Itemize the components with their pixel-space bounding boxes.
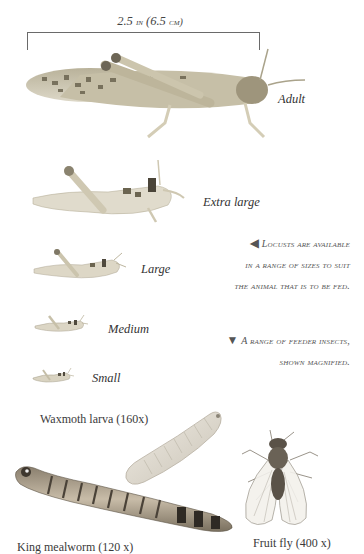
fruit-fly-illustration — [232, 430, 332, 532]
measurement-label: 2.5 in (6.5 cm) — [90, 14, 210, 29]
caption-locusts-line-1: ◀ Locusts are available — [235, 233, 350, 254]
size-label-adult: Adult — [278, 92, 305, 107]
small-locust-illustration — [32, 367, 74, 385]
measurement-metric: (6.5 — [146, 14, 166, 28]
caption-feeders-line-2: shown magnified. — [227, 351, 350, 372]
king-mealworm-illustration — [12, 462, 237, 537]
measurement-number: 2.5 — [117, 14, 133, 28]
caption-locusts-line-3: the animal that is to be fed. — [235, 275, 350, 296]
measurement-unit-cm: cm) — [169, 16, 183, 27]
size-label-small: Small — [92, 371, 120, 386]
adult-locust-illustration — [20, 45, 310, 140]
extra-large-locust-illustration — [28, 160, 188, 230]
size-label-large: Large — [141, 262, 170, 277]
medium-locust-illustration — [34, 313, 89, 335]
caption-locusts: ◀ Locusts are available in a range of si… — [235, 233, 350, 296]
measurement-unit-in: in — [136, 16, 143, 27]
size-label-medium: Medium — [108, 322, 149, 337]
caption-feeders: ▼ A range of feeder insects, shown magni… — [227, 330, 350, 372]
caption-locusts-line-2: in a range of sizes to suit — [235, 254, 350, 275]
caption-feeders-line-1: ▼ A range of feeder insects, — [227, 330, 350, 351]
left-arrow-icon: ◀ — [250, 236, 259, 250]
feeder-label-king-mealworm: King mealworm (120 x) — [17, 540, 133, 554]
large-locust-illustration — [32, 245, 127, 285]
feeder-label-fruit-fly: Fruit fly (400 x) — [253, 536, 331, 551]
down-arrow-icon: ▼ — [227, 333, 239, 347]
size-label-extra-large: Extra large — [203, 195, 260, 210]
